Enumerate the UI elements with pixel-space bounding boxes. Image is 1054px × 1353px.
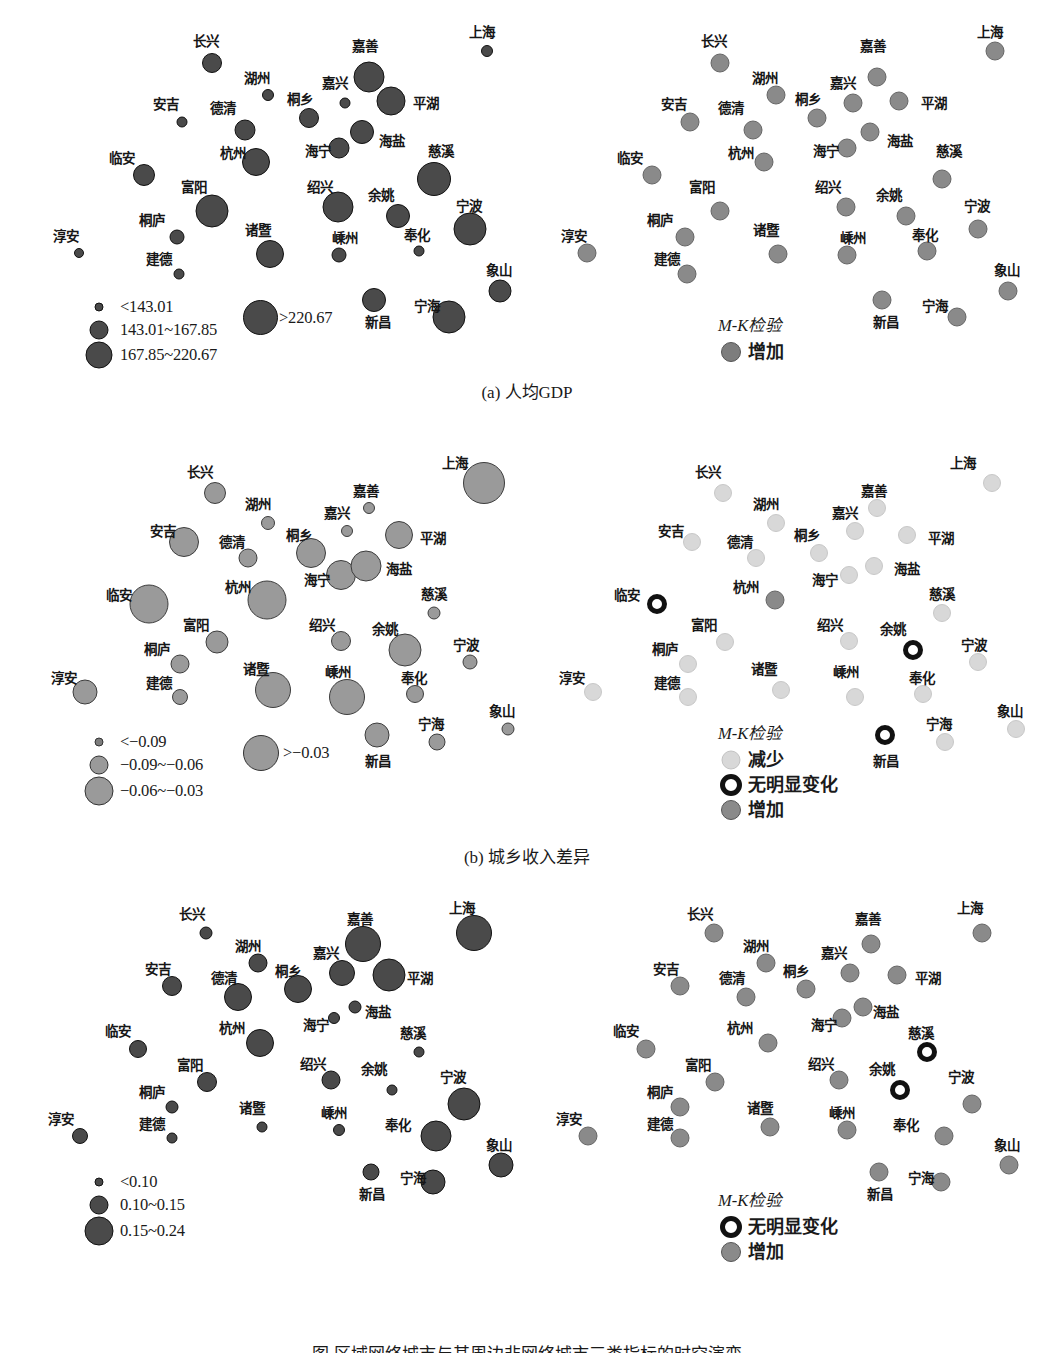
city-label: 诸暨 [239,1097,265,1117]
city-label: 平湖 [915,967,941,987]
city-label: 桐乡 [783,960,809,980]
city-label: 海盐 [365,1001,391,1021]
city-trend-marker-decrease [840,566,858,584]
city-label: 宁波 [948,1066,974,1086]
city-bubble [362,288,386,312]
city-trend-marker-decrease [898,526,916,544]
panel-c: 长兴湖州安吉德清桐乡嘉兴嘉善上海平湖海宁海盐临安杭州慈溪富阳绍兴余姚宁波桐庐诸暨… [0,875,1054,1315]
city-bubble [248,581,287,620]
city-bubble [448,1088,481,1121]
city-label: 桐乡 [287,88,313,108]
city-label: 诸暨 [747,1097,773,1117]
city-label: 桐乡 [795,88,821,108]
city-trend-marker-increase [862,935,881,954]
city-label: 湖州 [244,67,270,87]
city-bubble [130,585,169,624]
mk-decrease-icon [718,748,748,773]
legend-bubble-icon [78,1220,120,1242]
city-trend-marker-decrease [584,683,602,701]
city-label: 象山 [997,700,1023,720]
legend-bubble-icon [243,300,278,335]
city-label: 长兴 [187,461,213,481]
city-label: 嘉善 [855,908,881,928]
legend-label: 0.10~0.15 [120,1194,185,1216]
city-trend-marker-decrease [1007,720,1025,738]
city-label: 上海 [469,21,495,41]
city-label: 德清 [718,97,744,117]
city-bubble [261,516,275,530]
city-label: 海盐 [887,130,913,150]
city-trend-marker-increase [918,242,937,261]
city-bubble [202,53,222,73]
city-trend-marker-increase [948,308,967,327]
city-label: 富阳 [177,1054,203,1074]
panel-label: (b) [464,848,484,867]
city-trend-marker-increase [933,170,952,189]
city-trend-marker-increase [838,139,857,158]
city-label: 奉化 [912,224,938,244]
city-label: 杭州 [728,142,754,162]
city-bubble [333,1124,345,1136]
city-label: 杭州 [225,576,251,596]
legend-item: <143.01 [78,296,217,318]
city-label: 新昌 [873,750,899,770]
city-trend-marker-decrease [933,604,951,622]
legend-bubble-icon [78,754,120,776]
city-trend-marker-decrease [865,557,883,575]
city-bubble [481,45,493,57]
city-bubble [177,117,188,128]
city-bubble [428,607,441,620]
city-label: 宁海 [414,295,440,315]
city-label: 宁波 [961,634,987,654]
city-trend-marker-increase [676,228,695,247]
city-bubble [454,213,487,246]
city-trend-marker-decrease [914,685,932,703]
mk-title: M-K检验 [718,1187,838,1211]
city-trend-marker-increase [711,202,730,221]
city-trend-marker-increase [671,1129,690,1148]
legend-label: 减少 [748,748,784,773]
legend-item: 增加 [718,340,784,365]
city-trend-marker-increase [757,954,776,973]
city-label: 建德 [647,1113,673,1133]
city-label: 上海 [449,897,475,917]
mk-increase-icon [718,1240,748,1265]
city-label: 奉化 [404,224,430,244]
city-label: 临安 [106,584,132,604]
city-label: 嘉兴 [322,72,348,92]
city-trend-marker-increase [1000,1156,1019,1175]
city-label: 绍兴 [817,614,843,634]
city-label: 海盐 [894,558,920,578]
city-trend-marker-increase [838,246,857,265]
city-bubble [389,634,422,667]
city-label: 余姚 [869,1058,895,1078]
city-label: 诸暨 [751,658,777,678]
mk-nochange-icon [718,773,748,798]
city-bubble [429,734,446,751]
city-trend-marker-decrease [969,653,987,671]
city-trend-marker-increase [766,591,785,610]
city-trend-marker-increase [873,291,892,310]
city-label: 湖州 [743,935,769,955]
city-label: 海宁 [813,140,839,160]
legend-label: 增加 [748,1240,784,1265]
city-trend-marker-increase [681,113,700,132]
city-trend-marker-increase [705,924,724,943]
panel-name: 城乡收入差异 [488,848,590,867]
city-trend-marker-increase [578,244,597,263]
city-bubble [365,723,390,748]
city-label: 上海 [442,452,468,472]
city-trend-marker-decrease [679,655,697,673]
city-label: 嘉善 [352,35,378,55]
city-label: 绍兴 [808,1053,834,1073]
city-bubble [387,1085,398,1096]
city-label: 海盐 [379,130,405,150]
legend-b-mk: M-K检验 减少 无明显变化 增加 [718,720,838,823]
city-label: 嘉善 [353,480,379,500]
city-label: 嘉善 [860,35,886,55]
city-label: 慈溪 [400,1022,426,1042]
city-bubble [323,192,354,223]
city-trend-marker-increase [963,1095,982,1114]
legend-b-size-largest: >−0.03 [243,735,329,771]
city-label: 海宁 [811,1014,837,1034]
